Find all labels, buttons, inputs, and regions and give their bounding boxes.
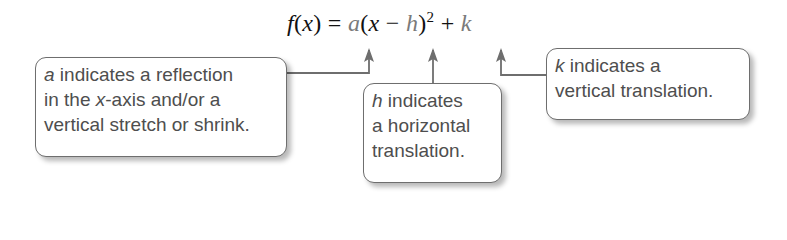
callout-variable: a <box>44 64 55 85</box>
arrow-a-icon <box>287 48 374 73</box>
callout-variable: h <box>372 90 383 111</box>
arrow-h-icon <box>428 48 438 83</box>
callout-a: a indicates a reflection in the x-axis a… <box>35 57 287 157</box>
callout-h: h indicates a horizontal translation. <box>363 83 502 183</box>
callout-variable: k <box>555 55 565 76</box>
arrow-k-icon <box>496 48 546 75</box>
callout-k: k indicates a vertical translation. <box>546 48 750 120</box>
